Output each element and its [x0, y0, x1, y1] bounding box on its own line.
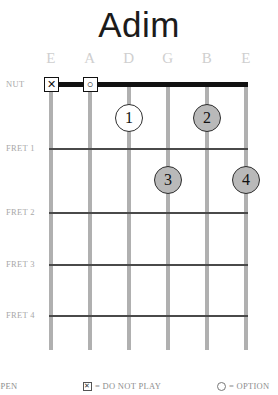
finger-dot-1: 1	[115, 104, 143, 132]
optional-icon	[217, 382, 226, 391]
string-label-2: A	[77, 50, 103, 67]
string-label-6: E	[233, 50, 259, 67]
string-label-3: D	[116, 50, 142, 67]
fret-label-fret-4: FRET 4	[6, 310, 50, 320]
optional-marker: ○	[83, 77, 98, 92]
legend-item-label: = OPTION	[229, 381, 269, 391]
string-line-1	[49, 84, 53, 350]
legend-item-optional: = OPTION	[217, 381, 269, 391]
fret-line-4	[49, 315, 248, 317]
legend: OPEN✕= DO NOT PLAY= OPTION	[0, 381, 278, 395]
do-not-play-marker: ✕	[44, 77, 59, 92]
legend-item-label: OPEN	[0, 381, 17, 391]
nut-bar	[49, 82, 248, 87]
page-title: Adim	[0, 4, 278, 46]
string-line-6	[244, 84, 248, 350]
legend-item-do-not-play: ✕= DO NOT PLAY	[83, 381, 161, 391]
fret-label-fret-1: FRET 1	[6, 143, 50, 153]
string-label-1: E	[38, 50, 64, 67]
do-not-play-icon: ✕	[83, 382, 92, 391]
string-line-2	[88, 84, 92, 350]
legend-item-label: = DO NOT PLAY	[95, 381, 161, 391]
finger-dot-2: 2	[193, 104, 221, 132]
fret-line-3	[49, 264, 248, 266]
finger-dot-4: 4	[232, 166, 260, 194]
string-line-4	[166, 84, 170, 350]
string-label-5: B	[194, 50, 220, 67]
fret-label-fret-3: FRET 3	[6, 259, 50, 269]
finger-dot-3: 3	[154, 166, 182, 194]
string-label-4: G	[155, 50, 181, 67]
chord-diagram: Adim EADGBE NUTFRET 1FRET 2FRET 3FRET 4 …	[0, 0, 278, 395]
fret-line-1	[49, 148, 248, 150]
fret-label-fret-2: FRET 2	[6, 207, 50, 217]
legend-item-open: OPEN	[0, 381, 17, 391]
fret-line-2	[49, 212, 248, 214]
